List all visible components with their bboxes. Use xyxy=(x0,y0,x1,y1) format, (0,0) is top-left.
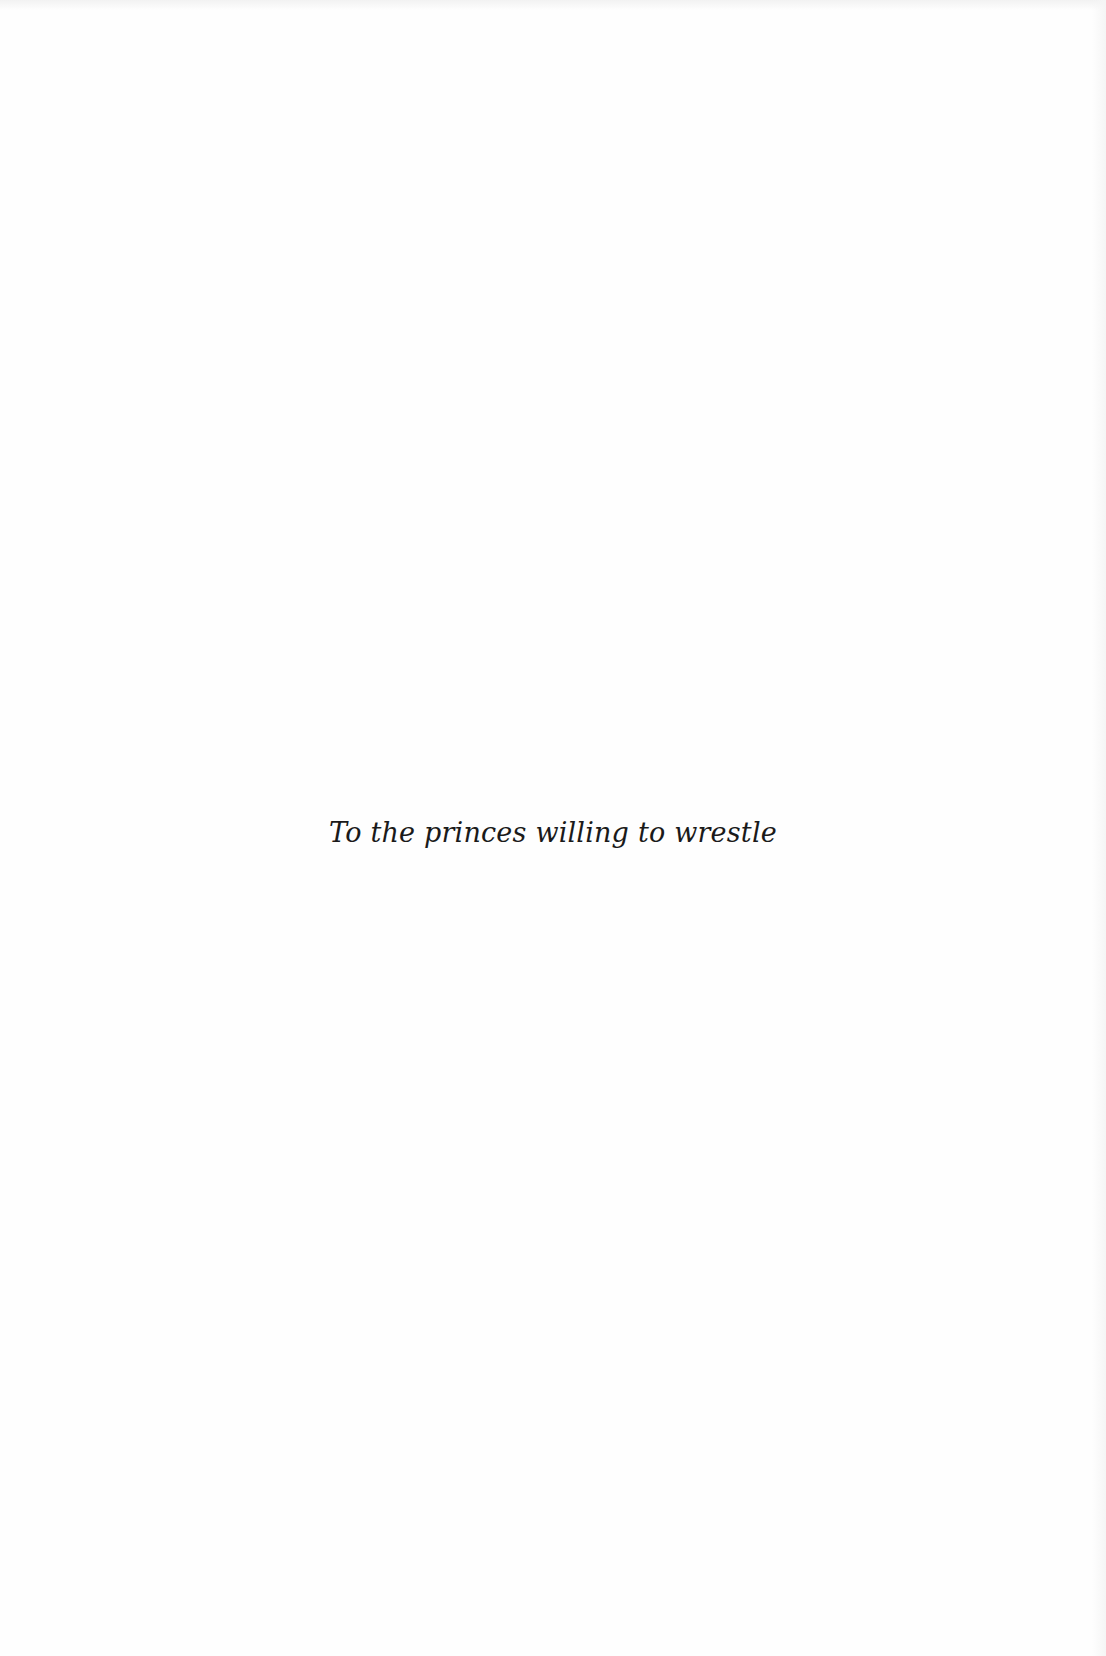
dedication-text: To the princes willing to wrestle xyxy=(0,813,1106,853)
scan-edge-top xyxy=(0,0,1106,10)
